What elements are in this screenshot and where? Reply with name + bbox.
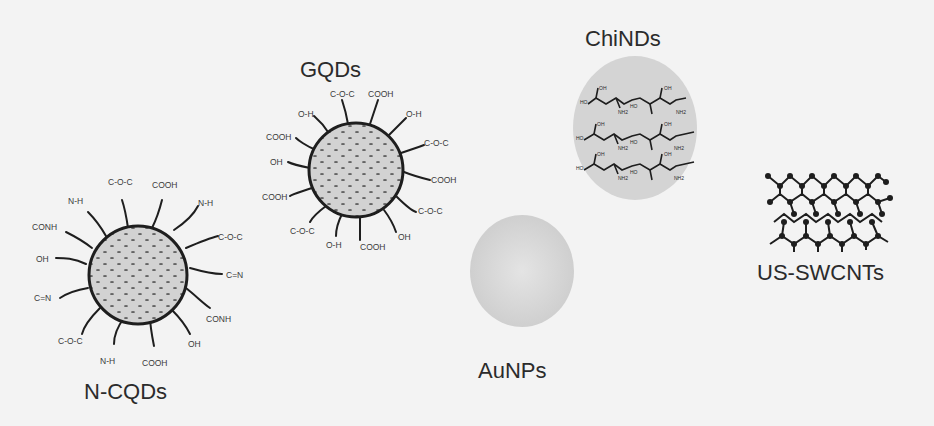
group-label: O-H <box>298 109 314 119</box>
n-cqds-structure: C-O-C COOH N-H N-H CONH C-O-C OH C=N C=N… <box>32 177 243 368</box>
group-label: C-O-C <box>330 89 355 99</box>
group-label: C-O-C <box>290 226 315 236</box>
group-label: COOH <box>266 132 292 142</box>
group-label: COOH <box>262 192 288 202</box>
group-label: N-H <box>198 198 213 208</box>
group-label: C-O-C <box>108 177 133 187</box>
group-label: C=N <box>226 270 243 280</box>
group-label: N-H <box>100 356 115 366</box>
group-label: OH <box>398 232 411 242</box>
svg-text:NH2: NH2 <box>674 175 684 181</box>
svg-text:OH: OH <box>597 121 605 127</box>
svg-text:HO: HO <box>630 169 638 175</box>
svg-text:NH2: NH2 <box>618 109 628 115</box>
group-label: O-H <box>406 109 422 119</box>
gqds-sphere <box>309 123 403 217</box>
svg-text:OH: OH <box>664 85 672 91</box>
svg-text:HO: HO <box>630 103 638 109</box>
svg-text:NH2: NH2 <box>618 175 628 181</box>
svg-text:HO: HO <box>576 135 584 141</box>
group-label: N-H <box>68 196 83 206</box>
svg-text:HO: HO <box>580 99 588 105</box>
group-label: OH <box>270 157 283 167</box>
svg-text:NH2: NH2 <box>618 145 628 151</box>
group-label: COOH <box>142 358 168 368</box>
svg-text:OH: OH <box>599 85 607 91</box>
group-label: C=N <box>34 293 51 303</box>
group-label: O-H <box>326 240 342 250</box>
svg-text:NH2: NH2 <box>676 109 686 115</box>
svg-text:OH: OH <box>664 121 672 127</box>
svg-text:NH2: NH2 <box>674 145 684 151</box>
group-label: CONH <box>206 314 231 324</box>
group-label: OH <box>188 339 201 349</box>
group-label: COOH <box>368 89 394 99</box>
aunps-sphere <box>470 215 574 327</box>
svg-text:OH: OH <box>664 151 672 157</box>
svg-text:HO: HO <box>630 139 638 145</box>
group-label: C-O-C <box>418 206 443 216</box>
nanomaterials-diagram: C-O-C COOH O-H O-H COOH C-O-C OH COOH CO… <box>0 0 934 426</box>
group-label: C-O-C <box>424 138 449 148</box>
group-label: COOH <box>152 180 178 190</box>
us-swcnts-structure <box>765 173 893 252</box>
svg-text:OH: OH <box>597 151 605 157</box>
group-label: OH <box>36 254 49 264</box>
group-label: CONH <box>32 222 57 232</box>
gqds-structure: C-O-C COOH O-H O-H COOH C-O-C OH COOH CO… <box>262 89 457 252</box>
group-label: C-O-C <box>218 232 243 242</box>
group-label: C-O-C <box>58 336 83 346</box>
chinds-structure: OHOH HOHO NH2NH2 OHOH HOHO NH2NH2 OHOH H… <box>573 56 697 200</box>
group-label: COOH <box>360 242 386 252</box>
n-cqds-sphere <box>89 226 187 324</box>
svg-text:HO: HO <box>576 165 584 171</box>
group-label: COOH <box>431 175 457 185</box>
